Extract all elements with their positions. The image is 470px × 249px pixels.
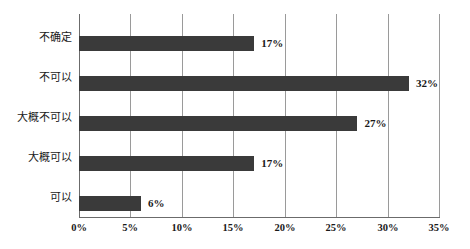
bar-0 [79, 36, 254, 51]
category-label-3: 大概可以 [0, 152, 72, 163]
bar-value-1: 32% [416, 78, 438, 89]
x-axis-line [79, 217, 440, 218]
plot-area: 17% 32% 27% 17% 6% [79, 14, 440, 218]
bar-4 [79, 196, 141, 211]
x-tick-label-10: 10% [172, 223, 193, 234]
bar-value-0: 17% [261, 38, 283, 49]
bar-chart: 17% 32% 27% 17% 6% 不确定 不可以 大概不可以 大概可以 可以… [0, 0, 470, 249]
category-label-2: 大概不可以 [0, 112, 72, 123]
category-label-4: 可以 [0, 192, 72, 203]
x-tick-label-25: 25% [326, 223, 347, 234]
x-tick-label-20: 20% [275, 223, 296, 234]
x-tick-label-5: 5% [122, 223, 138, 234]
bar-row: 27% [79, 116, 440, 131]
bar-row: 17% [79, 36, 440, 51]
bar-row: 32% [79, 76, 440, 91]
bar-value-3: 17% [261, 158, 283, 169]
x-tick-label-35: 35% [429, 223, 450, 234]
x-tick-label-15: 15% [223, 223, 244, 234]
x-tick-label-0: 0% [71, 223, 87, 234]
bar-3 [79, 156, 254, 171]
bar-row: 17% [79, 156, 440, 171]
x-tick-label-30: 30% [378, 223, 399, 234]
bar-value-2: 27% [364, 118, 386, 129]
bar-1 [79, 76, 409, 91]
bar-value-4: 6% [148, 198, 165, 209]
bar-row: 6% [79, 196, 440, 211]
bar-2 [79, 116, 357, 131]
category-label-1: 不可以 [0, 72, 72, 83]
category-label-0: 不确定 [0, 32, 72, 43]
